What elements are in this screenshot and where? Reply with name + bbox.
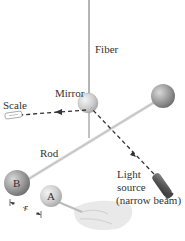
far-sphere [151,84,175,108]
fiber-label: Fiber [95,43,118,55]
sphere-b-label: B [13,177,20,189]
cavendish-diagram: Fiber Mirror Scale Rod Light source (nar… [0,0,185,241]
incident-beam [91,108,154,174]
mirror-label: Mirror [55,87,84,99]
reflected-beam [20,110,86,115]
light-label-line3: (narrow beam) [116,194,181,206]
distance-label: r [24,202,28,214]
light-label-line2: source [117,181,146,193]
light-label-line1: Light [117,168,141,180]
sphere-a-label: A [47,190,55,202]
scale-label: Scale [3,99,27,111]
scale [5,111,23,119]
rod-label: Rod [40,147,58,159]
